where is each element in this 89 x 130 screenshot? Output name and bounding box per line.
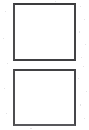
empty-box-top[interactable] — [13, 3, 76, 61]
empty-box-bottom[interactable] — [13, 69, 76, 126]
empty-box-top-interior — [15, 5, 74, 59]
diagram-canvas: Two empty square outlines stacked vertic… — [0, 0, 89, 130]
empty-box-bottom-interior — [15, 71, 74, 124]
